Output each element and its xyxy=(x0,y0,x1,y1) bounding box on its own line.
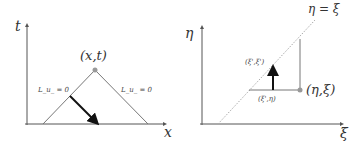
x-axis-label: x xyxy=(164,124,172,140)
eta-axis-label: η xyxy=(185,25,193,41)
left-characteristic xyxy=(43,70,95,124)
right-characteristic xyxy=(95,70,148,124)
point-label: (η,ξ) xyxy=(306,82,335,97)
left-edge-label: L_u_ = 0 xyxy=(38,86,69,94)
diagram-canvas xyxy=(0,0,358,150)
lower-point-label: (ξ',η) xyxy=(258,95,276,103)
upper-point-label: (ξ',ξ') xyxy=(245,58,264,66)
characteristic-arrow xyxy=(70,96,95,121)
apex-label: (x,t) xyxy=(80,48,107,63)
right-panel xyxy=(200,20,342,125)
diagonal-label: η = ξ xyxy=(308,2,339,16)
left-panel xyxy=(25,25,165,125)
eta-xi-point xyxy=(298,88,303,93)
right-edge-label: L_u_ = 0 xyxy=(121,86,152,94)
t-axis-label: t xyxy=(15,18,21,34)
apex-point xyxy=(93,68,98,73)
xi-axis-label: ξ xyxy=(340,125,348,141)
